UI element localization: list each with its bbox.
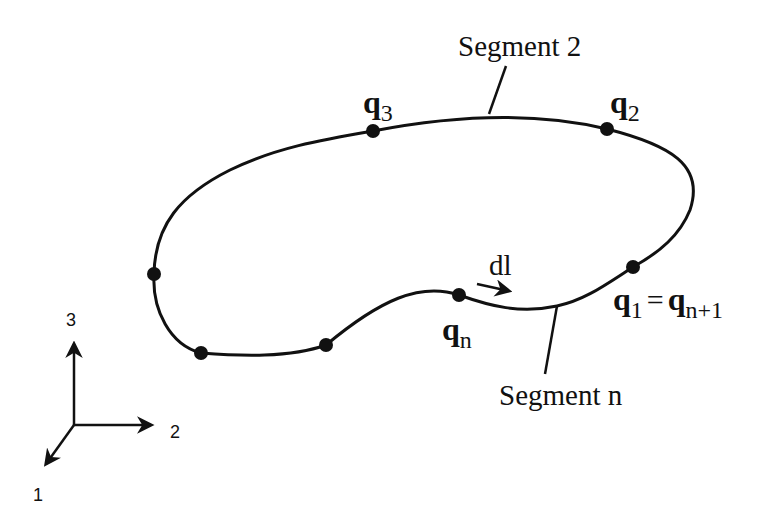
node-dot — [147, 267, 161, 281]
q1-equals-qn1-label: q1=qn+1 — [613, 281, 723, 323]
segment-2-leader — [489, 66, 506, 114]
node-qn-dot — [452, 288, 466, 302]
closed-curve — [154, 117, 694, 355]
closed-curve-diagram: Segment 2 Segment n q3 q2 qn q1=qn+1 dl … — [0, 0, 784, 527]
node-q2-dot — [600, 122, 614, 136]
node-dot — [319, 338, 333, 352]
segment-2-label: Segment 2 — [458, 30, 581, 62]
qn-label: qn — [442, 311, 472, 353]
q2-label: q2 — [610, 84, 640, 126]
node-q3-dot — [366, 124, 380, 138]
dl-arrow-icon — [477, 284, 509, 291]
coordinate-axes: 3 2 1 — [33, 310, 180, 505]
segment-n-label: Segment n — [499, 379, 623, 411]
axis-1-label: 1 — [33, 485, 43, 505]
q3-label: q3 — [363, 84, 393, 126]
segment-n-leader — [545, 306, 557, 374]
dl-label: dl — [489, 249, 512, 281]
axis-3-label: 3 — [66, 310, 76, 330]
axis-2-label: 2 — [170, 422, 180, 442]
node-q1-dot — [626, 260, 640, 274]
axis-1-arrow-icon — [46, 425, 74, 464]
node-dot — [194, 346, 208, 360]
